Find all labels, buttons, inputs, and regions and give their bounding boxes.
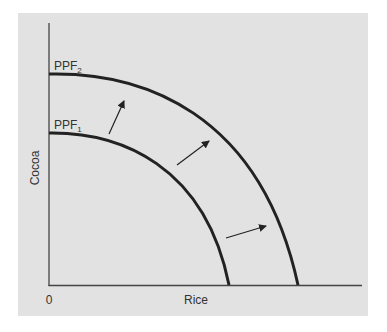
x-axis-label: Rice xyxy=(184,293,208,307)
origin-label: 0 xyxy=(46,293,53,307)
y-axis-label: Cocoa xyxy=(28,150,42,185)
ppf-diagram: PPF2 PPF1 Cocoa Rice 0 xyxy=(0,0,387,332)
